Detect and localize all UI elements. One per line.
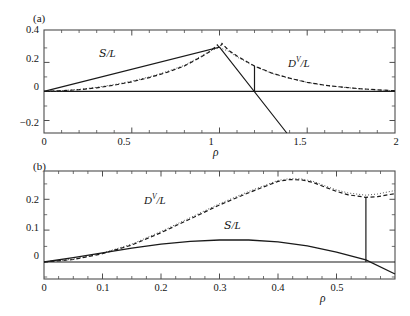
figure-container: (a) 0.4 0.2 0 −0.2 0 0.5 1 1.5 2 ρ S/L D…	[0, 0, 410, 316]
panel-b-plot	[0, 0, 410, 316]
panel-b-xmajor-ticks	[103, 171, 337, 279]
panel-b-xminor-ticks	[59, 171, 381, 279]
panel-b-curve-s	[44, 240, 395, 274]
panel-b-curve-dv-dotted	[44, 179, 395, 262]
panel-b: (b) 0.2 0.1 0 0 0.1 0.2 0.3 0.4 0.5 ρ DV…	[0, 0, 410, 316]
panel-b-curve-dv-dashed	[44, 180, 395, 262]
panel-b-yminor-ticks	[44, 184, 395, 277]
panel-b-frame	[44, 171, 395, 279]
